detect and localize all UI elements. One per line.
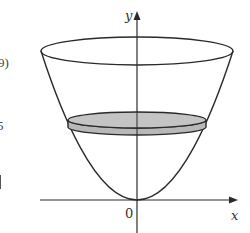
paraboloid-diagram [0, 0, 250, 233]
x-axis-label: x [231, 209, 238, 222]
cropped-text-fragment-middle: 5 [0, 119, 4, 132]
x-axis-arrow-icon [229, 197, 238, 204]
cropped-bar-fragment [0, 175, 1, 189]
origin-label: 0 [125, 207, 133, 220]
y-axis-arrow-icon [134, 11, 141, 20]
cropped-text-fragment-top: 9) [0, 56, 9, 69]
y-axis-label: y [125, 9, 132, 22]
